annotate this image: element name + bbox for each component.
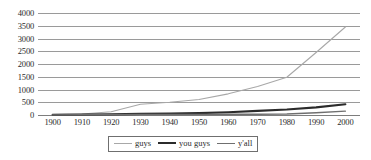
chart-legend: guysyou guysy'all xyxy=(108,136,258,152)
x-axis-tick-labels: 1900191019201930194019501960197019801990… xyxy=(38,117,360,131)
legend-entry[interactable]: y'all xyxy=(217,139,252,148)
y-axis-tick-label: 2500 xyxy=(18,46,34,56)
legend-swatch-icon xyxy=(158,142,176,144)
legend-swatch-icon xyxy=(217,143,235,144)
y-axis-tick-label: 0 xyxy=(30,110,34,120)
legend-entry[interactable]: you guys xyxy=(158,139,210,148)
x-axis-tick-label: 1900 xyxy=(45,117,61,127)
plot-area xyxy=(38,13,360,115)
x-axis-tick-label: 1910 xyxy=(74,117,90,127)
x-axis-tick-label: 1990 xyxy=(308,117,324,127)
y-axis-tick-label: 4000 xyxy=(18,8,34,18)
x-axis-tick-label: 1980 xyxy=(279,117,295,127)
x-axis-tick-label: 1960 xyxy=(220,117,236,127)
y-axis-tick-label: 3000 xyxy=(18,34,34,44)
y-axis-tick-label: 2000 xyxy=(18,59,34,69)
x-axis-tick-label: 2000 xyxy=(337,117,353,127)
x-axis-tick-label: 1930 xyxy=(132,117,148,127)
x-axis-tick-label: 1920 xyxy=(103,117,119,127)
x-axis-tick-label: 1950 xyxy=(191,117,207,127)
series-lines xyxy=(38,13,360,115)
legend-swatch-icon xyxy=(114,143,132,144)
y-axis-tick-labels: 05001000150020002500300035004000 xyxy=(0,13,34,115)
legend-label: you guys xyxy=(179,139,210,148)
y-axis-tick-label: 3500 xyxy=(18,21,34,31)
line-chart: 05001000150020002500300035004000 1900191… xyxy=(0,0,371,160)
y-axis-tick-label: 1500 xyxy=(18,72,34,82)
x-axis-tick-label: 1940 xyxy=(162,117,178,127)
y-axis-tick-label: 500 xyxy=(22,97,34,107)
legend-label: guys xyxy=(135,139,151,148)
y-axis-tick-label: 1000 xyxy=(18,85,34,95)
legend-entry[interactable]: guys xyxy=(114,139,151,148)
series-line xyxy=(53,27,346,114)
legend-label: y'all xyxy=(238,139,252,148)
x-axis-tick-label: 1970 xyxy=(249,117,265,127)
